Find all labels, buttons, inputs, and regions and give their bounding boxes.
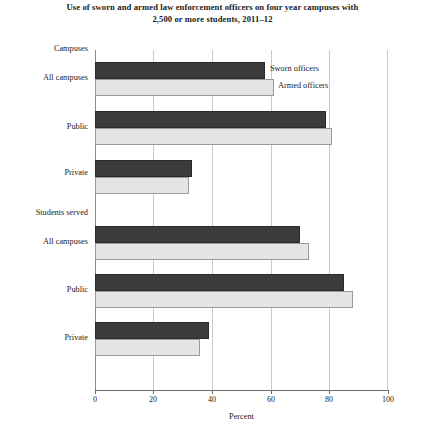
category-label-campuses-public: Public	[0, 122, 88, 131]
group-header-campuses: Campuses	[0, 44, 88, 53]
gridline-80	[329, 50, 330, 390]
x-tick-label-80: 80	[309, 395, 349, 404]
x-tick-label-40: 40	[192, 395, 232, 404]
x-tick-100	[388, 390, 389, 394]
bar-sworn-campuses-private	[95, 160, 192, 177]
x-tick-label-20: 20	[133, 395, 173, 404]
group-header-students-served: Students served	[0, 208, 88, 217]
bar-armed-campuses-all	[95, 79, 274, 96]
category-label-campuses-private: Private	[0, 168, 88, 177]
gridline-60	[271, 50, 272, 390]
x-tick-0	[95, 390, 96, 394]
chart-title: Use of sworn and armed law enforcement o…	[60, 2, 365, 25]
bar-armed-students-private	[95, 339, 200, 356]
bar-armed-students-public	[95, 291, 353, 308]
bar-armed-students-all	[95, 243, 309, 260]
bar-armed-campuses-private	[95, 177, 189, 194]
x-axis-label: Percent	[95, 412, 388, 421]
bar-sworn-campuses-all	[95, 62, 265, 79]
legend-label-sworn: Sworn officers	[270, 64, 319, 73]
category-label-campuses-all: All campuses	[0, 73, 88, 82]
category-label-students-private: Private	[0, 333, 88, 342]
x-tick-label-0: 0	[75, 395, 115, 404]
category-label-students-all: All campuses	[0, 237, 88, 246]
bar-sworn-students-public	[95, 274, 344, 291]
x-tick-label-60: 60	[251, 395, 291, 404]
x-tick-40	[212, 390, 213, 394]
plot-area	[95, 50, 388, 390]
gridline-100	[387, 50, 388, 390]
bar-sworn-students-all	[95, 226, 300, 243]
bar-sworn-students-private	[95, 322, 209, 339]
bar-sworn-campuses-public	[95, 111, 326, 128]
x-tick-label-100: 100	[368, 395, 408, 404]
bar-armed-campuses-public	[95, 128, 332, 145]
legend-label-armed: Armed officers	[278, 81, 328, 90]
x-tick-60	[271, 390, 272, 394]
category-label-students-public: Public	[0, 285, 88, 294]
x-axis-line	[95, 390, 388, 391]
x-tick-80	[329, 390, 330, 394]
gridline-40	[212, 50, 213, 390]
x-tick-20	[153, 390, 154, 394]
